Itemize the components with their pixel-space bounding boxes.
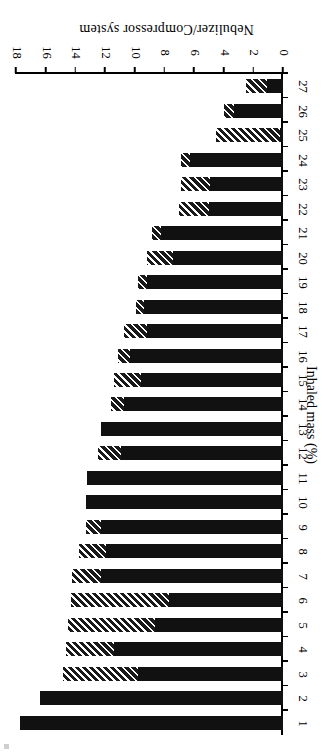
category-tick-label: 24 <box>295 149 310 171</box>
bar <box>138 275 283 289</box>
bar-segment-hatched <box>136 300 143 314</box>
bar <box>118 349 283 363</box>
bar-segment-hatched <box>118 349 130 363</box>
category-tick-label: 21 <box>295 223 310 245</box>
category-tick <box>283 513 288 515</box>
category-tick <box>283 538 288 540</box>
value-tick-label: 10 <box>127 40 142 66</box>
bar <box>224 104 283 118</box>
bar <box>181 177 283 191</box>
value-tick-label: 16 <box>38 40 53 66</box>
bar-segment-hatched <box>79 544 106 558</box>
bar-segment-hatched <box>179 202 209 216</box>
category-tick-label: 2 <box>295 688 310 710</box>
category-tick-label: 7 <box>295 565 310 587</box>
bar-segment-hatched <box>246 79 267 93</box>
bar-segment-hatched <box>86 520 101 534</box>
bar-segment-hatched <box>152 226 161 240</box>
bar-segment-hatched <box>138 275 147 289</box>
category-tick <box>283 464 288 466</box>
bar-segment-hatched <box>71 593 169 607</box>
bar-segment-solid <box>106 544 283 558</box>
value-tick-label: 2 <box>246 40 261 66</box>
category-tick-label: 1 <box>295 712 310 734</box>
bar-segment-hatched <box>98 446 122 460</box>
bar <box>40 691 283 705</box>
bar <box>114 373 283 387</box>
bar <box>71 593 283 607</box>
bar-segment-solid <box>101 569 283 583</box>
value-tick <box>223 67 225 73</box>
bar-segment-solid <box>114 642 283 656</box>
bar-segment-solid <box>138 667 283 681</box>
bar-segment-hatched <box>216 128 280 142</box>
bar <box>111 398 283 412</box>
bar-segment-solid <box>155 618 283 632</box>
category-tick-label: 22 <box>295 198 310 220</box>
bar <box>152 226 283 240</box>
bar-segment-solid <box>144 300 283 314</box>
bar <box>63 667 283 681</box>
bar-segment-solid <box>209 202 283 216</box>
chart-figure: 024681012141618 123456789101112131415161… <box>0 0 333 753</box>
bar <box>87 471 283 485</box>
category-tick <box>283 636 288 638</box>
value-tick <box>45 67 47 73</box>
bar <box>20 716 283 730</box>
value-tick-label: 6 <box>187 40 202 66</box>
bar <box>66 642 283 656</box>
category-tick <box>283 366 288 368</box>
category-tick-label: 26 <box>295 100 310 122</box>
bar <box>86 495 283 509</box>
bar-segment-hatched <box>124 324 146 338</box>
category-tick-label: 27 <box>295 76 310 98</box>
value-tick <box>15 67 17 73</box>
category-tick-label: 23 <box>295 174 310 196</box>
bar-segment-solid <box>101 520 283 534</box>
bar-segment-solid <box>169 593 283 607</box>
bar <box>216 128 283 142</box>
value-tick <box>134 67 136 73</box>
category-tick <box>283 146 288 148</box>
bar-segment-solid <box>87 471 283 485</box>
value-tick <box>104 67 106 73</box>
bar-segment-solid <box>190 153 283 167</box>
category-tick <box>283 562 288 564</box>
bar-segment-solid <box>20 716 283 730</box>
value-tick <box>75 67 77 73</box>
bar-segment-solid <box>147 324 283 338</box>
bar <box>72 569 283 583</box>
value-tick <box>253 67 255 73</box>
category-tick-label: 4 <box>295 639 310 661</box>
category-tick <box>283 440 288 442</box>
bar-segment-solid <box>124 398 283 412</box>
bar-segment-solid <box>121 446 283 460</box>
category-tick <box>283 391 288 393</box>
value-tick-label: 0 <box>276 40 291 66</box>
category-tick <box>283 121 288 123</box>
bar <box>68 618 283 632</box>
bar-segment-hatched <box>111 398 124 412</box>
category-tick-label: 19 <box>295 272 310 294</box>
y-axis-title: Inhaled mass (%) <box>303 305 319 525</box>
bar-segment-solid <box>210 177 283 191</box>
category-tick <box>283 415 288 417</box>
bar-segment-solid <box>141 373 283 387</box>
bar <box>181 153 283 167</box>
category-tick-label: 8 <box>295 541 310 563</box>
bar <box>136 300 283 314</box>
value-tick-label: 14 <box>68 40 83 66</box>
category-tick <box>283 73 288 75</box>
chart-screenshot: 024681012141618 123456789101112131415161… <box>0 0 333 753</box>
bar-segment-solid <box>130 349 283 363</box>
category-tick <box>283 293 288 295</box>
bar-segment-hatched <box>181 153 190 167</box>
value-tick-label: 18 <box>9 40 24 66</box>
category-tick <box>283 219 288 221</box>
bar-segment-hatched <box>72 569 100 583</box>
bar-segment-hatched <box>147 251 174 265</box>
bar-segment-solid <box>147 275 283 289</box>
bar-segment-hatched <box>68 618 156 632</box>
category-tick <box>283 342 288 344</box>
bar-segment-solid <box>280 128 283 142</box>
